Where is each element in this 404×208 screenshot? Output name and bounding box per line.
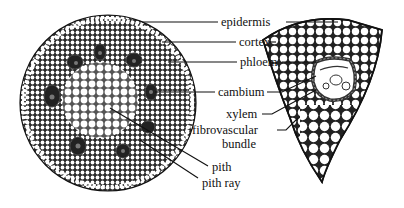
label-pith-ray: pith ray bbox=[202, 176, 241, 190]
label-cortex: cortex bbox=[239, 35, 270, 49]
label-cambium: cambium bbox=[218, 85, 265, 99]
label-bundle: bundle bbox=[222, 137, 256, 151]
label-phloem: phloem bbox=[240, 55, 278, 69]
label-fibrovascular: fibrovascular bbox=[192, 123, 258, 137]
stem-circle bbox=[20, 15, 196, 191]
label-epidermis: epidermis bbox=[221, 15, 270, 29]
label-xylem: xylem bbox=[226, 107, 257, 121]
stem-sector-enlarged bbox=[263, 19, 382, 185]
label-pith: pith bbox=[212, 160, 231, 174]
